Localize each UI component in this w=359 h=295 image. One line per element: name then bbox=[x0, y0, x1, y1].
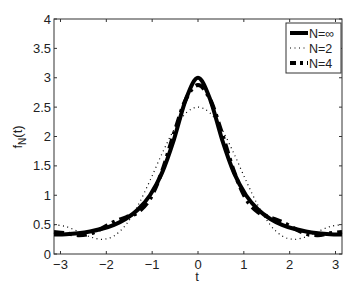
y-tick-label: 0.5 bbox=[33, 217, 51, 232]
y-tick-label: 1 bbox=[44, 188, 51, 203]
y-tick-label: 2.5 bbox=[33, 100, 51, 115]
line-chart: −3−2−10123 00.511.522.533.54 t fN(t) N=∞… bbox=[0, 0, 359, 295]
y-tick-label: 3.5 bbox=[33, 41, 51, 56]
y-axis-label-arg: (t) bbox=[10, 125, 25, 137]
x-tick-label: 1 bbox=[240, 257, 247, 272]
x-tick-label: −1 bbox=[145, 257, 160, 272]
legend-label: N=2 bbox=[309, 42, 332, 56]
x-tick-label: −2 bbox=[99, 257, 114, 272]
x-tick-label: 3 bbox=[332, 257, 339, 272]
legend-label: N=4 bbox=[309, 57, 332, 71]
legend: N=∞N=2N=4 bbox=[286, 23, 341, 73]
svg-text:fN(t): fN(t) bbox=[10, 125, 28, 148]
y-axis-label-subscript: N bbox=[17, 138, 28, 145]
y-tick-label: 3 bbox=[44, 70, 51, 85]
x-tick-label: −3 bbox=[53, 257, 68, 272]
legend-label: N=∞ bbox=[309, 27, 334, 41]
y-tick-label: 2 bbox=[44, 129, 51, 144]
y-tick-label: 1.5 bbox=[33, 158, 51, 173]
y-tick-label: 4 bbox=[44, 12, 51, 27]
series-line-n bbox=[54, 78, 342, 235]
y-axis-label: fN(t) bbox=[10, 125, 28, 148]
series-line-n4 bbox=[54, 85, 342, 235]
series-line-n2 bbox=[54, 107, 342, 239]
x-tick-label: 2 bbox=[286, 257, 293, 272]
x-axis-label: t bbox=[195, 269, 199, 284]
y-tick-label: 0 bbox=[44, 247, 51, 262]
